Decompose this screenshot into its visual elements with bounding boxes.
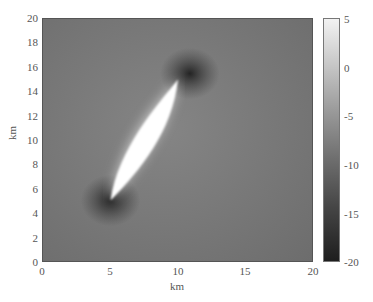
y-axis-label: km [6, 126, 18, 140]
y-tick: 8 [33, 159, 39, 170]
colorbar-tick: -5 [344, 111, 353, 122]
x-tick: 10 [173, 266, 184, 277]
y-tick: 14 [27, 86, 38, 97]
y-tick: 6 [33, 184, 39, 195]
y-tick: 16 [27, 62, 38, 73]
y-tick: 2 [33, 233, 39, 244]
y-tick: 12 [27, 111, 38, 122]
heatmap-image [43, 19, 312, 261]
colorbar-tick: 0 [344, 63, 350, 74]
y-tick: 18 [27, 37, 38, 48]
x-tick: 5 [107, 266, 113, 277]
x-tick: 0 [39, 266, 45, 277]
y-tick: 4 [33, 208, 39, 219]
y-tick: 10 [27, 135, 38, 146]
colorbar-tick: 5 [344, 14, 350, 25]
y-tick: 20 [27, 13, 38, 24]
x-axis-label: km [170, 280, 184, 292]
colorbar-tick: -10 [344, 160, 359, 171]
x-tick: 15 [240, 266, 251, 277]
colorbar-tick: -15 [344, 209, 359, 220]
x-tick: 20 [308, 266, 319, 277]
heatmap-plot-area [42, 18, 313, 262]
colorbar-tick: -20 [344, 257, 359, 268]
colorbar [323, 18, 340, 262]
y-tick: 0 [33, 257, 39, 268]
